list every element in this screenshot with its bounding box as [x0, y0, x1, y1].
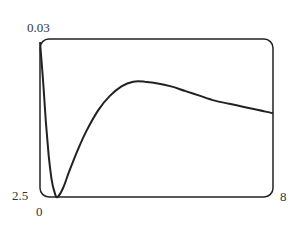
y-axis-bottom-label: 2.5: [12, 189, 28, 202]
data-curve: [40, 42, 273, 197]
x-axis-right-label: 8: [280, 190, 287, 203]
x-axis-left-label: 0: [36, 205, 43, 218]
plot-frame: [40, 39, 273, 197]
y-axis-top-label: 0.03: [27, 21, 50, 34]
